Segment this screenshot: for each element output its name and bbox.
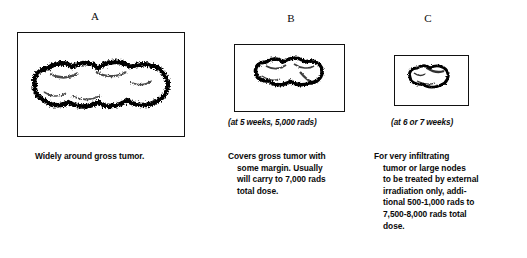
caption-line: some margin. Usually (228, 163, 326, 175)
caption-line: For very infiltrating (374, 151, 479, 163)
panel-b-letter: B (284, 13, 298, 24)
caption-line: tional 500-1,000 rads to (374, 197, 479, 209)
tumor-blob-large-icon (26, 52, 174, 114)
caption-line: total dose. (228, 186, 326, 198)
caption-line: irradiation only, addi- (374, 186, 479, 198)
panel-b-caption: Covers gross tumor with some margin. Usu… (228, 151, 326, 197)
panel-b-sub-caption: (at 5 weeks, 5,000 rads) (228, 118, 317, 128)
caption-line: will carry to 7,000 rads (228, 174, 326, 186)
caption-line: 7,500-8,000 rads total (374, 209, 479, 221)
tumor-blob-medium-icon (250, 54, 326, 88)
panel-c-caption: For very infiltrating tumor or large nod… (374, 151, 479, 232)
panel-c-sub-caption: (at 6 or 7 weeks) (391, 118, 453, 128)
caption-line: dose. (374, 221, 479, 233)
figure-root: A (0, 0, 527, 258)
panel-a-letter: A (88, 11, 102, 22)
caption-line: tumor or large nodes (374, 163, 479, 175)
panel-a-caption: Widely around gross tumor. (35, 151, 144, 163)
caption-line: Widely around gross tumor. (35, 151, 144, 163)
panel-c-letter: C (421, 13, 435, 24)
caption-line: Covers gross tumor with (228, 151, 326, 163)
caption-line: to be treated by external (374, 174, 479, 186)
tumor-blob-small-icon (405, 62, 453, 90)
